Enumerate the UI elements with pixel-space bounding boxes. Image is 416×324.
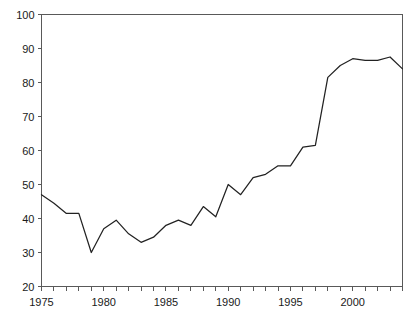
data-series-line: [42, 57, 403, 253]
y-tick-label: 20: [22, 281, 34, 293]
tick-marks: [38, 15, 403, 291]
axes: [42, 15, 403, 287]
y-axis-tick-labels: 2030405060708090100: [16, 9, 34, 293]
y-tick-label: 50: [22, 179, 34, 191]
x-axis-tick-labels: 197519801985199019952000: [29, 296, 365, 308]
x-tick-label: 1990: [216, 296, 240, 308]
y-tick-label: 80: [22, 77, 34, 89]
x-tick-label: 1985: [154, 296, 178, 308]
y-tick-label: 90: [22, 43, 34, 55]
x-tick-label: 1995: [278, 296, 302, 308]
y-tick-label: 60: [22, 145, 34, 157]
y-tick-label: 30: [22, 247, 34, 259]
y-tick-label: 100: [16, 9, 34, 21]
line-chart: 2030405060708090100 19751980198519901995…: [0, 0, 416, 324]
x-tick-label: 1980: [91, 296, 115, 308]
chart-canvas: 2030405060708090100 19751980198519901995…: [0, 0, 416, 324]
x-tick-label: 1975: [29, 296, 53, 308]
x-tick-label: 2000: [340, 296, 364, 308]
y-tick-label: 70: [22, 111, 34, 123]
y-tick-label: 40: [22, 213, 34, 225]
